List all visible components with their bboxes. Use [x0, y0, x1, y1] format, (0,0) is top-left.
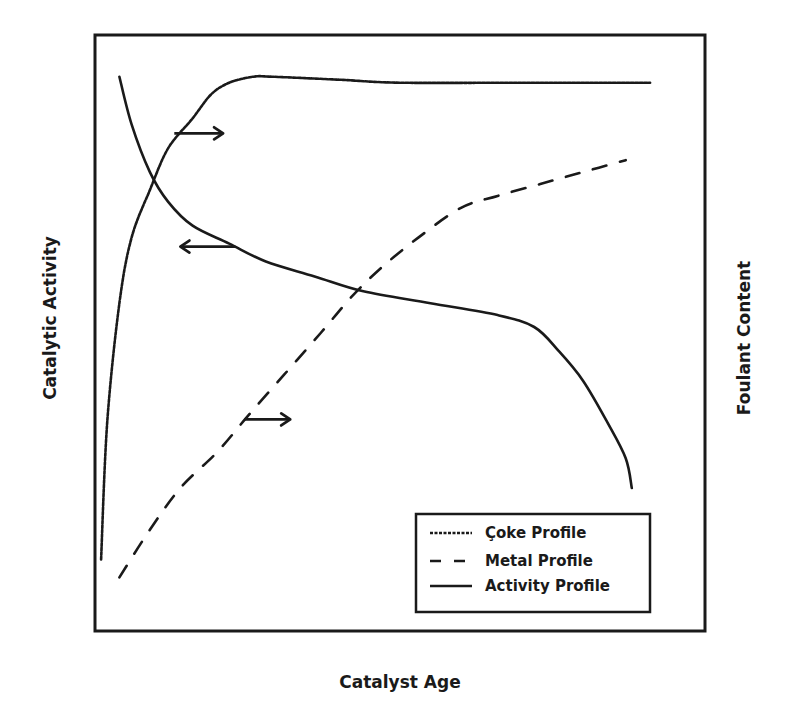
series-line-coke-profile — [101, 76, 650, 559]
y-axis-label-left: Catalytic Activity — [40, 236, 60, 400]
series-layer — [101, 76, 650, 577]
arrow-layer — [174, 127, 290, 425]
legend-label-activity: Activity Profile — [485, 577, 610, 595]
x-axis-label: Catalyst Age — [339, 672, 460, 692]
chart: Catalyst Age Catalytic Activity Foulant … — [0, 0, 800, 721]
series-line-activity-profile — [119, 77, 631, 488]
arrow-right-icon — [244, 413, 290, 425]
legend-label-metal: Metal Profile — [485, 552, 593, 570]
legend-label-coke: Çoke Profile — [485, 524, 586, 542]
legend: Çoke Profile Metal Profile Activity Prof… — [416, 514, 650, 612]
y-axis-label-right: Foulant Content — [734, 261, 754, 415]
